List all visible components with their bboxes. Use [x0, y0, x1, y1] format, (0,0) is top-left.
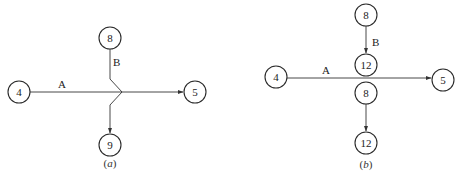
node-8-top: 8 — [355, 4, 377, 26]
edge-label-B: B — [113, 56, 120, 68]
edge-label-A: A — [322, 64, 330, 76]
node-4: 4 — [8, 81, 30, 103]
node-5: 5 — [184, 81, 206, 103]
figure-a: A B 4 8 9 5 (a) — [8, 27, 206, 170]
svg-text:8: 8 — [107, 32, 113, 44]
svg-text:12: 12 — [361, 59, 372, 71]
caption-a: (a) — [104, 157, 117, 170]
node-4: 4 — [265, 66, 287, 88]
node-5: 5 — [432, 69, 454, 91]
edge-label-B: B — [372, 36, 379, 48]
node-8: 8 — [99, 27, 121, 49]
node-12-bottom: 12 — [355, 132, 377, 154]
node-8-bottom: 8 — [355, 82, 377, 104]
node-9: 9 — [99, 134, 121, 156]
svg-text:12: 12 — [361, 137, 372, 149]
node-12-top: 12 — [355, 54, 377, 76]
svg-text:5: 5 — [440, 74, 446, 86]
edge-label-A: A — [58, 78, 66, 90]
svg-text:5: 5 — [192, 86, 198, 98]
svg-text:8: 8 — [363, 9, 369, 21]
svg-text:4: 4 — [16, 86, 22, 98]
figure-b: A B 4 8 12 8 12 5 (b) — [265, 4, 454, 171]
svg-text:8: 8 — [363, 87, 369, 99]
caption-b: (b) — [360, 158, 373, 171]
network-diagram: A B 4 8 9 5 (a) A B — [0, 0, 461, 177]
svg-text:9: 9 — [107, 139, 113, 151]
svg-text:4: 4 — [273, 71, 279, 83]
